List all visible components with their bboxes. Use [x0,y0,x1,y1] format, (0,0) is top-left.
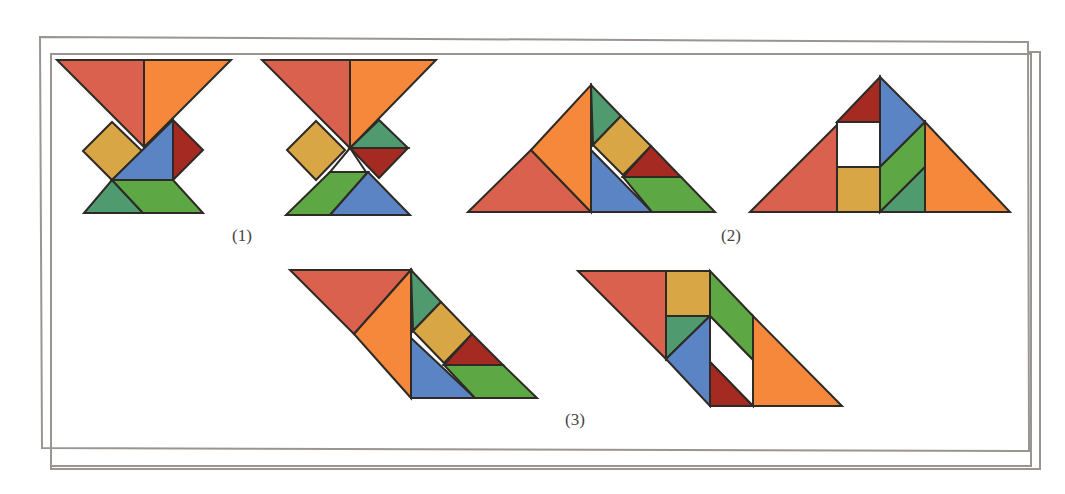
tangram-figures [57,60,1010,406]
tangram-piece-3b-red [578,271,666,359]
tangram-piece-2b-red [750,125,837,212]
tangram-piece-1a-darkred [173,120,203,180]
tangram-piece-2b-darkred [837,77,880,122]
figure-label-2: (2) [721,226,741,246]
tangram-piece-3b-orange [753,316,842,406]
figure-label-1: (1) [232,226,252,246]
page-frame [0,0,1065,494]
figure-label-3: (3) [565,410,585,430]
tangram-piece-2b-orange [925,122,1010,212]
tangram-piece-3b-yellow [666,271,710,316]
tangram-piece-2b-yellow [837,167,880,212]
tangram-piece-2b-gap [837,122,880,167]
